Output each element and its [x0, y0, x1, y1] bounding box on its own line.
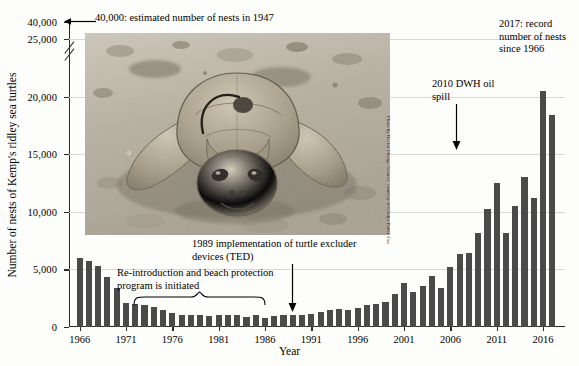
x-tick-label: 2001	[394, 334, 415, 345]
y-tick-label: 25,000	[28, 34, 57, 45]
bar	[373, 304, 379, 327]
x-tick-label: 2006	[440, 334, 461, 345]
bar	[457, 254, 463, 327]
figure-root: Number of nests of Kemp's ridley sea tur…	[0, 0, 579, 366]
y-tick: 20,000	[64, 97, 69, 98]
bar	[262, 318, 268, 327]
bar	[160, 310, 166, 327]
bar	[355, 308, 361, 327]
bar	[114, 288, 120, 327]
y-tick-label: 40,000	[28, 16, 57, 27]
y-tick-label: 10,000	[28, 206, 57, 217]
bar	[392, 294, 398, 327]
x-tick	[80, 327, 81, 331]
bar	[475, 233, 481, 327]
x-tick	[358, 327, 359, 331]
x-tick	[265, 327, 266, 331]
bar	[531, 198, 537, 327]
bar	[253, 315, 259, 327]
annotation-ted: 1989 implementation of turtle excluder d…	[192, 238, 362, 263]
x-tick	[404, 327, 405, 331]
x-tick-label: 1996	[347, 334, 368, 345]
bar	[86, 261, 92, 327]
bar	[494, 183, 500, 327]
bar	[225, 315, 231, 327]
bar	[420, 286, 426, 327]
bar	[104, 277, 110, 327]
bar	[179, 315, 185, 327]
bar	[466, 253, 472, 327]
bar	[410, 292, 416, 327]
x-tick-label: 1966	[69, 334, 90, 345]
y-tick: 25,000	[64, 39, 69, 40]
bar	[132, 304, 138, 327]
x-tick	[172, 327, 173, 331]
bar	[141, 305, 147, 327]
bar	[327, 310, 333, 327]
bar	[540, 91, 546, 327]
annotation-1947-estimate: 40,000: estimated number of nests in 194…	[95, 12, 274, 25]
y-axis-line	[69, 22, 70, 327]
x-tick-label: 2016	[533, 334, 554, 345]
x-tick	[450, 327, 451, 331]
x-tick-label: 1991	[301, 334, 322, 345]
bar	[151, 307, 157, 327]
y-tick-label: 0	[52, 322, 57, 333]
x-tick	[126, 327, 127, 331]
bar	[243, 317, 249, 327]
bar	[503, 233, 509, 327]
bar	[447, 267, 453, 327]
annotation-dwh-oil-spill: 2010 DWH oil spill	[432, 78, 512, 103]
bar	[484, 209, 490, 327]
x-tick-label: 1976	[162, 334, 183, 345]
ted-arrow	[288, 264, 297, 312]
x-tick	[219, 327, 220, 331]
bar	[290, 315, 296, 327]
y-tick-label: 15,000	[28, 149, 57, 160]
bar	[206, 316, 212, 327]
y-tick: 15,000	[64, 154, 69, 155]
x-tick-label: 1981	[208, 334, 229, 345]
bar	[95, 266, 101, 327]
y-axis-title-wrap: Number of nests of Kemp's ridley sea tur…	[14, 30, 30, 320]
bar	[299, 315, 305, 327]
bar	[401, 283, 407, 327]
bar	[234, 315, 240, 327]
annotation-2017-record: 2017: record number of nests since 1966	[499, 18, 571, 56]
bar	[123, 303, 129, 327]
bar	[216, 315, 222, 327]
x-tick	[497, 327, 498, 331]
bar	[429, 276, 435, 327]
bar	[318, 312, 324, 327]
bar	[345, 310, 351, 327]
bar	[336, 309, 342, 327]
x-tick	[543, 327, 544, 331]
y-tick-label: 5,000	[33, 264, 57, 275]
reintroduction-brace	[133, 292, 266, 306]
bar	[271, 316, 277, 327]
bar	[521, 177, 527, 327]
turtle-photo-art	[85, 33, 390, 235]
bar	[280, 315, 286, 327]
bar	[512, 206, 518, 327]
y-tick: 5,000	[64, 269, 69, 270]
bar	[308, 314, 314, 327]
bar	[169, 313, 175, 327]
bar	[197, 315, 203, 327]
bar	[549, 115, 555, 327]
bar	[382, 302, 388, 327]
bar	[364, 305, 370, 327]
x-axis-title: Year	[0, 345, 579, 357]
turtle-photo	[85, 33, 390, 235]
y-tick-label: 20,000	[28, 91, 57, 102]
x-tick-label: 1986	[255, 334, 276, 345]
bar	[188, 315, 194, 327]
bar	[77, 258, 83, 327]
y-tick: 10,000	[64, 212, 69, 213]
dwh-arrow	[452, 104, 461, 150]
x-tick	[311, 327, 312, 331]
photo-credit: Photo by Hector Chenge Alvarez, courtesy…	[385, 116, 391, 244]
bar	[438, 288, 444, 327]
y-tick: 0	[64, 327, 69, 328]
x-tick-label: 1971	[115, 334, 136, 345]
